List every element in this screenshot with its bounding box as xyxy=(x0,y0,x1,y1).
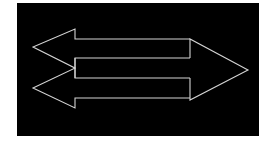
black-panel xyxy=(17,3,259,136)
arrow-diagram xyxy=(0,0,276,145)
